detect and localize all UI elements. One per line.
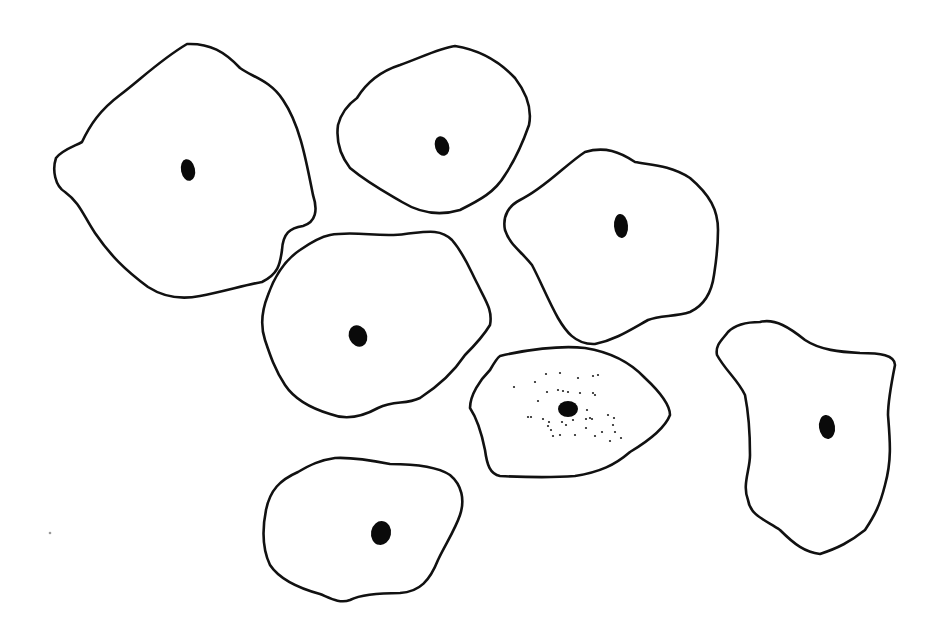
cytoplasmic-granule (550, 429, 552, 431)
cytoplasmic-granule (548, 421, 550, 423)
cytoplasmic-granule (579, 392, 581, 394)
nucleus (558, 401, 578, 417)
cytoplasmic-granule (597, 374, 599, 376)
cytoplasmic-granule (542, 418, 544, 420)
cytoplasmic-granule (592, 375, 594, 377)
cytoplasmic-granule (577, 377, 579, 379)
cytoplasmic-granule (561, 421, 563, 423)
cytoplasmic-granule (527, 416, 529, 418)
cytoplasmic-granule (594, 394, 596, 396)
cytoplasmic-granule (594, 435, 596, 437)
cytoplasmic-granule (589, 417, 591, 419)
cytoplasmic-granule (620, 437, 622, 439)
cytoplasmic-granule (562, 390, 564, 392)
cytoplasmic-granule (534, 381, 536, 383)
stray-mark (49, 532, 52, 535)
cytoplasmic-granule (545, 373, 547, 375)
cytoplasmic-granule (537, 400, 539, 402)
cytoplasmic-granule (572, 419, 574, 421)
cytoplasmic-granule (552, 435, 554, 437)
cytoplasmic-granule (565, 424, 567, 426)
cytoplasmic-granule (585, 418, 587, 420)
cytoplasmic-granule (585, 427, 587, 429)
cytoplasmic-granule (609, 440, 611, 442)
cytoplasmic-granule (567, 391, 569, 393)
cytoplasmic-granule (592, 392, 594, 394)
cytoplasmic-granule (530, 416, 532, 418)
cytoplasmic-granule (613, 417, 615, 419)
cytoplasmic-granule (591, 418, 593, 420)
cytoplasmic-granule (607, 414, 609, 416)
cytoplasmic-granule (546, 391, 548, 393)
cytoplasmic-granule (513, 386, 515, 388)
cytoplasmic-granule (559, 434, 561, 436)
cells-drawing (0, 0, 943, 632)
cytoplasmic-granule (612, 424, 614, 426)
cytoplasmic-granule (574, 434, 576, 436)
cytoplasmic-granule (559, 372, 561, 374)
epithelial-cells-illustration (0, 0, 943, 632)
cytoplasmic-granule (557, 389, 559, 391)
cytoplasmic-granule (586, 409, 588, 411)
cytoplasmic-granule (601, 431, 603, 433)
cytoplasmic-granule (547, 425, 549, 427)
stray-marks-layer (49, 532, 52, 535)
cytoplasmic-granule (614, 431, 616, 433)
